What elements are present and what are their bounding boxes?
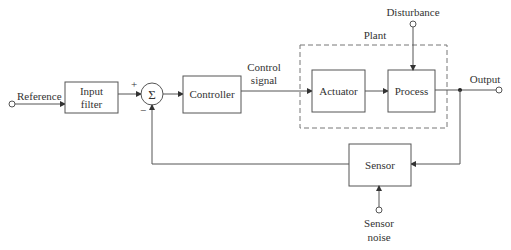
control-signal-label-2: signal bbox=[251, 74, 277, 86]
sensor-noise-label-1: Sensor bbox=[364, 217, 394, 229]
sensor-label: Sensor bbox=[365, 159, 395, 171]
output-terminal-circle bbox=[496, 87, 502, 93]
summing-junction: Σ + − bbox=[131, 78, 163, 116]
plant-label: Plant bbox=[364, 29, 387, 41]
actuator-block: Actuator bbox=[312, 70, 365, 112]
disturbance-terminal: Disturbance bbox=[386, 6, 439, 70]
disturbance-label: Disturbance bbox=[386, 6, 439, 18]
reference-terminal-circle bbox=[9, 101, 15, 107]
actuator-label: Actuator bbox=[319, 85, 358, 97]
process-label: Process bbox=[395, 85, 429, 97]
controller-label: Controller bbox=[189, 88, 235, 100]
output-label: Output bbox=[470, 73, 501, 85]
feedback-to-sum-arrow bbox=[152, 105, 349, 164]
reference-label: Reference bbox=[17, 90, 62, 102]
input-filter-label-1: Input bbox=[80, 85, 103, 97]
sensor-block: Sensor bbox=[349, 144, 411, 186]
controller-block: Controller bbox=[183, 76, 241, 113]
block-diagram: Reference Input filter Σ + − Controller … bbox=[0, 0, 511, 250]
input-filter-label-2: filter bbox=[81, 98, 103, 110]
control-signal-label-1: Control bbox=[247, 61, 281, 73]
process-block: Process bbox=[388, 70, 435, 112]
disturbance-terminal-circle bbox=[410, 21, 416, 27]
input-filter-block: Input filter bbox=[65, 82, 118, 113]
plus-sign: + bbox=[131, 78, 137, 90]
sigma-symbol: Σ bbox=[148, 87, 156, 102]
reference-terminal: Reference bbox=[9, 90, 65, 107]
minus-sign: − bbox=[140, 104, 146, 116]
sensor-noise-terminal-circle bbox=[376, 207, 382, 213]
sensor-noise-terminal: Sensor noise bbox=[364, 186, 394, 243]
output-terminal: Output bbox=[435, 73, 502, 93]
sensor-noise-label-2: noise bbox=[367, 231, 390, 243]
